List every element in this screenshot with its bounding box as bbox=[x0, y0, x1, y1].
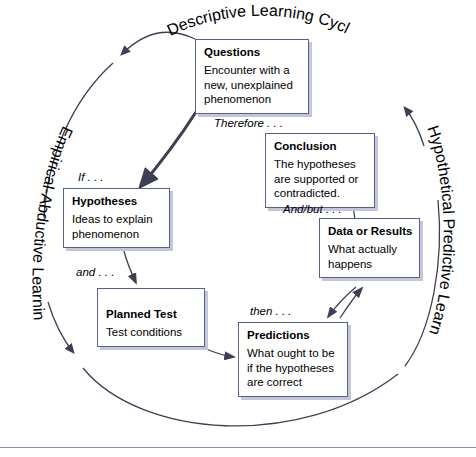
node-conclusion[interactable]: Conclusion The hypotheses are supported … bbox=[265, 133, 375, 208]
connector-label-therefore: Therefore . . . bbox=[214, 117, 283, 129]
node-hypotheses-body: Ideas to explain phenomenon bbox=[72, 212, 162, 241]
diagram-canvas: Descriptive Learning Cycles Empirical-Ab… bbox=[0, 0, 476, 457]
connector-label-if: If . . . bbox=[78, 171, 104, 183]
node-predictions-title: Predictions bbox=[247, 328, 340, 342]
node-planned-test[interactable]: Planned Test Test conditions bbox=[97, 288, 205, 347]
node-data-or-results[interactable]: Data or Results What actually happens bbox=[319, 218, 420, 278]
connector-label-and: and . . . bbox=[76, 266, 114, 278]
node-data-or-results-title: Data or Results bbox=[328, 224, 412, 238]
connector-label-then: then . . . bbox=[250, 305, 292, 317]
node-predictions[interactable]: Predictions What ought to be if the hypo… bbox=[238, 322, 348, 397]
bottom-divider bbox=[0, 447, 476, 448]
node-questions-title: Questions bbox=[204, 45, 301, 59]
arrow-hypotheses-to-planned-test bbox=[124, 251, 136, 283]
node-hypotheses-title: Hypotheses bbox=[72, 194, 162, 208]
arrow-questions-to-hypotheses bbox=[141, 112, 196, 186]
node-planned-test-body: Test conditions bbox=[106, 325, 197, 340]
arc-empirical-abductive-lower bbox=[48, 302, 73, 352]
node-questions-body: Encounter with a new, unexplained phenom… bbox=[204, 63, 301, 107]
node-predictions-body: What ought to be if the hypotheses are c… bbox=[247, 346, 340, 390]
arc-right-upper bbox=[405, 108, 424, 146]
node-conclusion-body: The hypotheses are supported or contradi… bbox=[274, 157, 367, 201]
node-data-or-results-body: What actually happens bbox=[328, 242, 412, 271]
arrow-predictions-to-data bbox=[340, 288, 362, 318]
cycle-label-top: Descriptive Learning Cycles bbox=[0, 0, 352, 39]
cycle-label-left: Empirical-Abductive Learning Cycles bbox=[0, 0, 76, 321]
arrow-planned-test-to-predictions bbox=[206, 349, 234, 357]
arc-descriptive-top bbox=[122, 32, 195, 54]
node-planned-test-title: Planned Test bbox=[106, 307, 197, 321]
node-conclusion-title: Conclusion bbox=[274, 139, 367, 153]
node-hypotheses[interactable]: Hypotheses Ideas to explain phenomenon bbox=[63, 188, 170, 248]
connector-label-and-but: And/but . . . bbox=[283, 203, 342, 215]
node-questions[interactable]: Questions Encounter with a new, unexplai… bbox=[195, 39, 309, 114]
